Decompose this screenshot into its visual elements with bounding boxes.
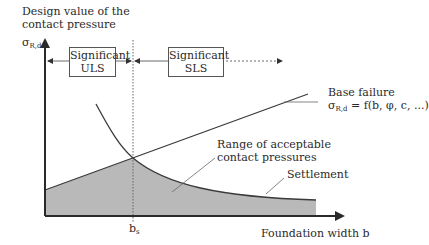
bs-symbol: b [129, 222, 136, 235]
sls-box-line2: SLS [169, 62, 223, 75]
bs-label: bs [129, 222, 140, 239]
y-axis-symbol: σR,d [22, 36, 42, 53]
base-failure-formula: σR,d = f(b, φ, c, ...) [328, 99, 429, 116]
acceptable-range-area [45, 158, 316, 216]
range-label-line2: contact pressures [217, 151, 331, 164]
y-axis-title: Design value of the contact pressure [22, 5, 130, 31]
y-axis-title-line2: contact pressure [22, 18, 130, 31]
sls-box: Significant SLS [168, 47, 224, 77]
bs-subscript: s [136, 228, 140, 236]
settlement-leader [266, 178, 284, 194]
base-failure-label: Base failure σR,d = f(b, φ, c, ...) [328, 86, 429, 116]
sls-box-line1: Significant [169, 49, 223, 62]
settlement-label: Settlement [287, 168, 348, 181]
y-axis-title-line1: Design value of the [22, 5, 130, 18]
formula-rest: = f(b, φ, c, ...) [348, 99, 429, 112]
range-label-line1: Range of acceptable [217, 138, 331, 151]
formula-sigma: σ [328, 99, 336, 112]
range-label: Range of acceptable contact pressures [217, 138, 331, 164]
x-axis-title: Foundation width b [261, 227, 370, 240]
uls-box-line1: Significant [70, 49, 115, 62]
uls-box: Significant ULS [69, 47, 116, 77]
sigma-symbol: σ [22, 36, 30, 49]
base-failure-title: Base failure [328, 86, 429, 99]
formula-subscript: R,d [336, 105, 348, 113]
sigma-subscript: R,d [30, 42, 42, 50]
uls-box-line2: ULS [70, 62, 115, 75]
